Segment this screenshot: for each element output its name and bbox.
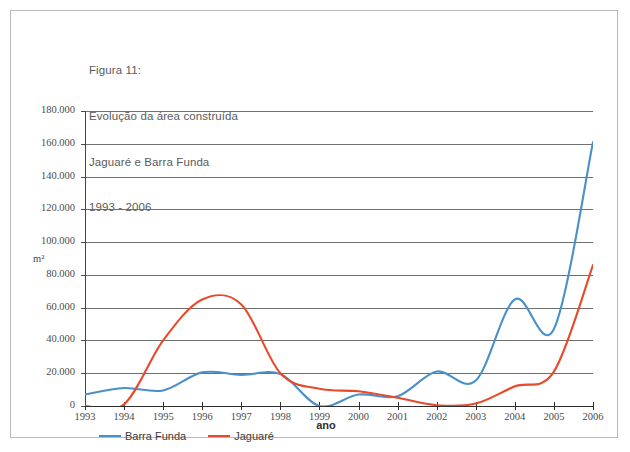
y-tick-label: 180.000 — [19, 104, 75, 115]
y-tick-label: 40.000 — [19, 333, 75, 344]
y-tick-label: 120.000 — [19, 202, 75, 213]
series-line-jaguaré — [85, 265, 593, 406]
y-tick-label: 0 — [19, 399, 75, 410]
series-line-barra-funda — [85, 142, 593, 406]
chart-legend: Barra Funda Jaguaré — [99, 430, 274, 442]
series-lines — [85, 111, 593, 406]
x-axis-line — [85, 406, 594, 407]
figure-frame: Figura 11: Evolução da área construída J… — [10, 10, 618, 438]
plot-area — [85, 111, 593, 406]
legend-label-barra-funda: Barra Funda — [125, 430, 186, 442]
legend-item-barra-funda: Barra Funda — [99, 430, 186, 442]
legend-label-jaguare: Jaguaré — [234, 430, 274, 442]
caption-line-1: Figura 11: — [89, 63, 238, 78]
y-tick-label: 60.000 — [19, 301, 75, 312]
y-tick-label: 140.000 — [19, 170, 75, 181]
y-tick-label: 80.000 — [19, 268, 75, 279]
y-tick-label: 20.000 — [19, 366, 75, 377]
y-axis-label: m² — [33, 253, 44, 264]
legend-swatch-jaguare — [208, 435, 230, 437]
legend-item-jaguare: Jaguaré — [208, 430, 274, 442]
y-tick-label: 160.000 — [19, 137, 75, 148]
legend-swatch-barra-funda — [99, 435, 121, 437]
y-tick-label: 100.000 — [19, 235, 75, 246]
